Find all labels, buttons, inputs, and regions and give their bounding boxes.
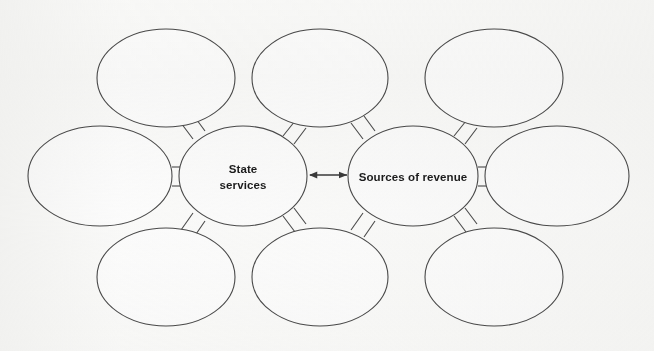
blank-node-top-center[interactable]: [252, 29, 388, 127]
connector-revenue-to-bottom-center: [351, 213, 375, 237]
state-services-label-line2: services: [220, 179, 267, 191]
blank-node-bottom-right[interactable]: [425, 228, 563, 326]
blank-node-middle-right[interactable]: [485, 126, 629, 226]
state-services-ellipse[interactable]: [179, 126, 307, 226]
blank-node-bottom-center[interactable]: [252, 228, 388, 326]
graphic-organizer-page: State services Sources of revenue: [0, 0, 654, 351]
concept-map-diagram: State services Sources of revenue: [0, 0, 654, 351]
blank-node-top-right[interactable]: [425, 29, 563, 127]
blank-node-bottom-left[interactable]: [97, 228, 235, 326]
center-node-state-services[interactable]: State services: [179, 126, 307, 226]
blank-node-middle-left[interactable]: [28, 126, 172, 226]
blank-node-top-left[interactable]: [97, 29, 235, 127]
sources-of-revenue-label: Sources of revenue: [359, 171, 468, 183]
state-services-label-line1: State: [229, 163, 258, 175]
center-node-sources-of-revenue[interactable]: Sources of revenue: [348, 126, 478, 226]
blank-node-group: [28, 29, 629, 326]
